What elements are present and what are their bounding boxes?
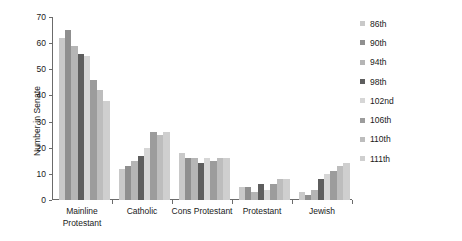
x-axis-label: Catholic — [127, 206, 158, 218]
legend-item[interactable]: 111th — [360, 149, 458, 168]
bar[interactable] — [163, 132, 169, 200]
plot-area: 010203040506070 — [52, 17, 352, 200]
y-tick-mark — [49, 122, 52, 123]
legend: 86th90th94th98th102nd106th110th111th — [360, 14, 458, 168]
x-axis-label-line: Protestant — [243, 206, 282, 218]
legend-label: 111th — [370, 154, 390, 164]
x-tick-mark — [172, 200, 173, 204]
bar[interactable] — [223, 158, 229, 200]
bar-chart: Number in Senate 010203040506070 Mainlin… — [0, 0, 462, 241]
legend-label: 90th — [370, 38, 387, 48]
legend-label: 94th — [370, 57, 387, 67]
y-tick-mark — [49, 17, 52, 18]
legend-label: 102nd — [370, 96, 394, 106]
y-tick-mark — [49, 174, 52, 175]
bar[interactable] — [343, 163, 349, 200]
legend-item[interactable]: 86th — [360, 14, 458, 33]
legend-swatch-icon — [360, 40, 365, 45]
x-tick-mark — [352, 200, 353, 204]
legend-swatch-icon — [360, 21, 365, 26]
x-axis-label: Jewish — [309, 206, 335, 218]
legend-item[interactable]: 98th — [360, 72, 458, 91]
y-axis-line — [52, 17, 53, 200]
bar[interactable] — [103, 101, 109, 200]
x-axis-label: Protestant — [243, 206, 282, 218]
y-tick-mark — [49, 148, 52, 149]
legend-swatch-icon — [360, 156, 365, 161]
legend-label: 86th — [370, 19, 387, 29]
legend-label: 110th — [370, 134, 391, 144]
legend-swatch-icon — [360, 118, 365, 123]
legend-item[interactable]: 106th — [360, 110, 458, 129]
x-tick-mark — [112, 200, 113, 204]
x-axis-label-line: Mainline — [63, 206, 102, 218]
x-axis-label-line: Catholic — [127, 206, 158, 218]
x-tick-mark — [232, 200, 233, 204]
bar-group — [59, 17, 110, 200]
x-axis-label: MainlineProtestant — [63, 206, 102, 229]
legend-swatch-icon — [360, 79, 365, 84]
y-tick-mark — [49, 95, 52, 96]
legend-item[interactable]: 90th — [360, 33, 458, 52]
x-axis-label-line: Jewish — [309, 206, 335, 218]
x-tick-mark — [292, 200, 293, 204]
legend-label: 98th — [370, 77, 387, 87]
y-tick-mark — [49, 69, 52, 70]
legend-item[interactable]: 94th — [360, 53, 458, 72]
y-tick-mark — [49, 43, 52, 44]
x-axis-label-line: Cons Protestant — [172, 206, 233, 218]
legend-item[interactable]: 102nd — [360, 91, 458, 110]
legend-swatch-icon — [360, 137, 365, 142]
bar[interactable] — [283, 179, 289, 200]
bar-group — [239, 17, 290, 200]
bar-group — [179, 17, 230, 200]
legend-swatch-icon — [360, 98, 365, 103]
legend-swatch-icon — [360, 60, 365, 65]
y-tick-mark — [49, 200, 52, 201]
legend-label: 106th — [370, 115, 391, 125]
bar-group — [299, 17, 350, 200]
x-axis-label-line: Protestant — [63, 218, 102, 230]
legend-item[interactable]: 110th — [360, 130, 458, 149]
bar-group — [119, 17, 170, 200]
x-axis-label: Cons Protestant — [172, 206, 233, 218]
